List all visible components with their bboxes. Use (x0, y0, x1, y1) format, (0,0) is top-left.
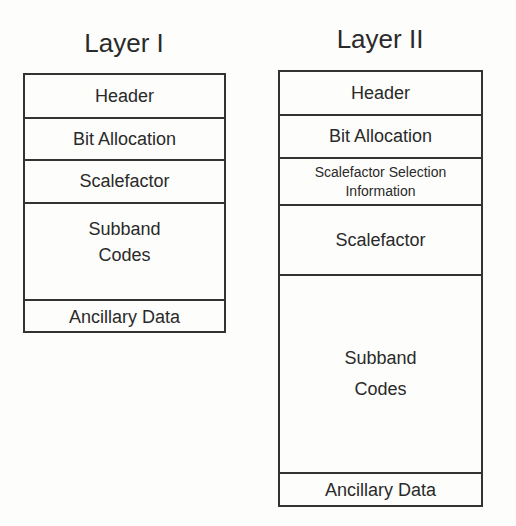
layer2-scalefactor: Scalefactor (280, 206, 481, 276)
layer2-subband-codes: Subband Codes (280, 276, 481, 474)
layer2-stack: Header Bit Allocation Scalefactor Select… (278, 70, 483, 507)
layer1-header: Header (25, 75, 224, 119)
layer1-title: Layer I (23, 28, 225, 59)
layer1-ancillary-data: Ancillary Data (25, 301, 224, 333)
layer2-scalefactor-selection-info: Scalefactor Selection Information (280, 159, 481, 206)
layer1-stack: Header Bit Allocation Scalefactor Subban… (23, 73, 226, 333)
layer1-scalefactor: Scalefactor (25, 161, 224, 204)
layer2-header: Header (280, 72, 481, 116)
layer2-bit-allocation: Bit Allocation (280, 116, 481, 159)
layer1-bit-allocation: Bit Allocation (25, 119, 224, 161)
layer1-subband-codes: Subband Codes (25, 204, 224, 301)
layer2-ancillary-data: Ancillary Data (280, 474, 481, 507)
layer2-title: Layer II (278, 24, 482, 55)
